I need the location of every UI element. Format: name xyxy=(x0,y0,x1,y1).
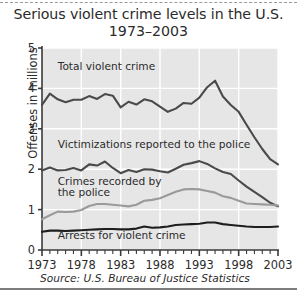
x-tick-label: 1998 xyxy=(224,258,253,272)
bottom-divider xyxy=(0,288,297,290)
x-tick-label: 1993 xyxy=(185,258,214,272)
series-label: Victimizations reported to the police xyxy=(58,138,251,150)
x-tick-label: 1988 xyxy=(146,258,175,272)
y-tick-label: 2 xyxy=(28,162,35,176)
series-label: Arrests for violent crime xyxy=(58,229,186,241)
y-tick-label: 3 xyxy=(28,122,35,136)
x-tick-label: 1978 xyxy=(67,258,96,272)
chart-plot-area: 0123451973197819831988199319982003Total … xyxy=(0,0,297,295)
y-tick-label: 4 xyxy=(28,81,35,95)
chart-figure: Serious violent crime levels in the U.S.… xyxy=(0,0,297,295)
x-tick-label: 2003 xyxy=(264,258,293,272)
x-tick-label: 1983 xyxy=(106,258,135,272)
series-label: Total violent crime xyxy=(57,60,155,72)
series-label: the police xyxy=(58,186,110,198)
y-tick-label: 5 xyxy=(28,41,35,55)
y-tick-label: 1 xyxy=(28,203,35,217)
x-tick-label: 1973 xyxy=(28,258,57,272)
y-tick-label: 0 xyxy=(28,243,35,257)
source-note: Source: U.S. Bureau of Justice Statistic… xyxy=(40,272,250,284)
